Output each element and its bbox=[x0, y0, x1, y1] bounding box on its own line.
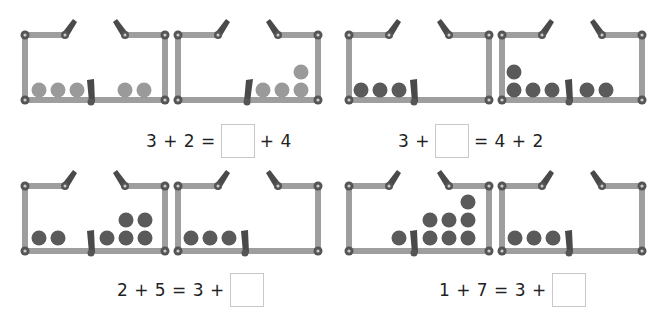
problem-1-box-1 bbox=[21, 19, 170, 106]
problem-4-box-1 bbox=[345, 170, 494, 257]
answer-box-4[interactable] bbox=[552, 273, 586, 307]
equation-2: 3 + = 4 + 2 bbox=[398, 124, 544, 158]
problem-3-box-2 bbox=[174, 170, 323, 257]
equation-2-left: 3 + bbox=[398, 131, 430, 151]
equation-2-right: = 4 + 2 bbox=[474, 131, 544, 151]
equation-3: 2 + 5 = 3 + bbox=[117, 273, 269, 307]
problem-1-box-2 bbox=[174, 19, 323, 106]
equation-1-left: 3 + 2 = bbox=[146, 131, 216, 151]
answer-box-2[interactable] bbox=[435, 124, 469, 158]
equation-4-left: 1 + 7 = 3 + bbox=[439, 280, 547, 300]
problem-2-box-1 bbox=[345, 19, 494, 106]
problem-2-box-2 bbox=[498, 19, 647, 106]
equation-3-left: 2 + 5 = 3 + bbox=[117, 280, 225, 300]
answer-box-3[interactable] bbox=[230, 273, 264, 307]
equation-1: 3 + 2 = + 4 bbox=[146, 124, 292, 158]
problem-4-box-2 bbox=[498, 170, 647, 257]
equation-4: 1 + 7 = 3 + bbox=[439, 273, 591, 307]
problem-3-box-1 bbox=[21, 170, 170, 257]
equation-1-right: + 4 bbox=[260, 131, 292, 151]
answer-box-1[interactable] bbox=[221, 124, 255, 158]
